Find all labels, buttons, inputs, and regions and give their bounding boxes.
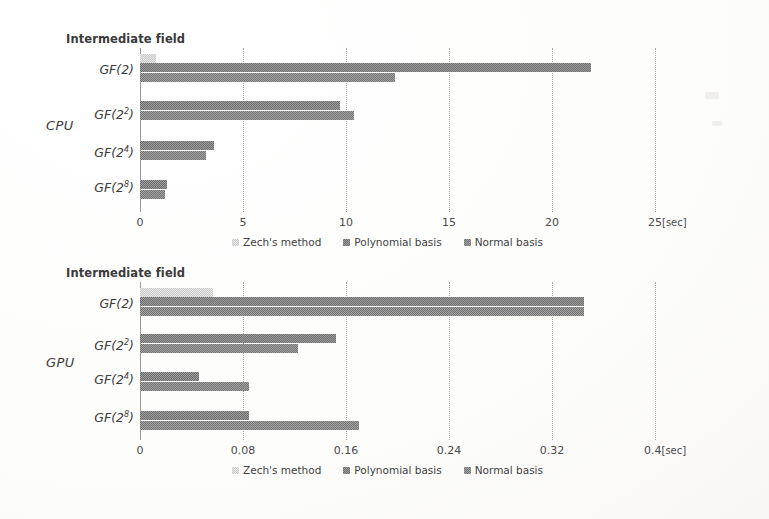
cpu-bar-gf2-2-polynomial [140,101,340,110]
label-close: ) [129,145,134,160]
cpu-legend-label-normal: Normal basis [475,236,543,248]
label-base: GF(2 [94,338,124,353]
gpu-bar-gf2-4-polynomial [140,372,199,381]
cpu-xtick-15: 15 [424,216,474,229]
cpu-bar-gf2-4-polynomial [140,141,214,150]
cpu-gridline-25 [655,48,656,212]
label-base: GF(2 [94,180,124,195]
cpu-legend-item-polynomial: Polynomial basis [343,236,441,248]
cpu-x-unit: [sec] [662,217,687,228]
cpu-axis-title: Intermediate field [66,32,185,46]
cpu-category-label-gf2-4: GF(24) [42,145,134,160]
label-base: GF(2 [99,296,129,311]
label-close: ) [129,410,134,425]
gpu-xtick-0: 0 [115,444,165,457]
cpu-chart: Intermediate field CPU GF(2) GF(22) GF(2… [0,0,769,262]
gpu-bar-gf2-zech [140,288,213,297]
gpu-category-label-gf2: GF(2) [42,296,134,311]
cpu-legend-label-zech: Zech's method [243,236,321,248]
gpu-bar-gf2-8-polynomial [140,411,249,420]
gpu-legend-label-polynomial: Polynomial basis [354,464,441,476]
cpu-bar-gf2-8-polynomial [140,180,167,189]
gpu-bar-gf2-4-normal [140,382,249,391]
cpu-gridline-15 [449,48,450,212]
cpu-bar-gf2-2-normal [140,111,354,120]
label-base: GF(2 [99,62,129,77]
gpu-gridline-04 [655,282,656,440]
gpu-bar-gf2-2-polynomial [140,334,336,343]
label-close: ) [129,62,134,77]
cpu-category-label-gf2: GF(2) [42,62,134,77]
gpu-bar-gf2-normal [140,307,584,316]
cpu-legend-label-polynomial: Polynomial basis [354,236,441,248]
cpu-xtick-5: 5 [218,216,268,229]
gpu-category-label-gf2-4: GF(24) [42,372,134,387]
legend-swatch-icon [343,239,350,246]
cpu-gridline-20 [552,48,553,212]
label-close: ) [129,180,134,195]
gpu-xtick-008: 0.08 [218,444,268,457]
gpu-bar-gf2-polynomial [140,297,584,306]
cpu-bar-gf2-zech [140,54,156,63]
gpu-chart: Intermediate field GPU GF(2) GF(22) GF(2… [0,262,769,519]
cpu-xtick-10: 10 [321,216,371,229]
gpu-category-label-gf2-2: GF(22) [42,338,134,353]
cpu-bar-gf2-8-normal [140,190,165,199]
gpu-axis-title: Intermediate field [66,266,185,280]
label-close: ) [129,107,134,122]
cpu-category-label-gf2-2: GF(22) [42,107,134,122]
label-base: GF(2 [94,107,124,122]
gpu-xtick-024: 0.24 [424,444,474,457]
label-base: GF(2 [94,410,124,425]
gpu-legend-item-polynomial: Polynomial basis [343,464,441,476]
gpu-legend-label-zech: Zech's method [243,464,321,476]
gpu-series-title: GPU [46,355,75,370]
gpu-legend-item-zech: Zech's method [232,464,321,476]
gpu-bar-gf2-2-normal [140,344,298,353]
cpu-xtick-25: 25[sec] [630,216,680,229]
cpu-bar-gf2-normal [140,73,395,82]
legend-swatch-icon [464,467,471,474]
cpu-category-label-gf2-8: GF(28) [42,180,134,195]
cpu-xtick-20: 20 [527,216,577,229]
cpu-legend-item-normal: Normal basis [464,236,543,248]
legend-swatch-icon [343,467,350,474]
legend-swatch-icon [232,239,239,246]
gpu-xtick-032: 0.32 [527,444,577,457]
label-close: ) [129,296,134,311]
gpu-xtick-04: 0.4[sec] [630,444,700,457]
legend-swatch-icon [464,239,471,246]
label-base: GF(2 [94,372,124,387]
gpu-bar-gf2-8-normal [140,421,359,430]
cpu-legend: Zech's method Polynomial basis Normal ba… [232,236,543,248]
gpu-xtick-016: 0.16 [321,444,371,457]
cpu-xtick-0: 0 [115,216,165,229]
cpu-bar-gf2-4-normal [140,151,206,160]
legend-swatch-icon [232,467,239,474]
cpu-xtick-25-value: 25 [648,216,662,229]
gpu-x-unit: [sec] [662,445,687,456]
label-close: ) [129,372,134,387]
scan-artifact [705,92,719,99]
gpu-xtick-04-value: 0.4 [644,444,662,457]
gpu-legend-item-normal: Normal basis [464,464,543,476]
gpu-legend: Zech's method Polynomial basis Normal ba… [232,464,543,476]
gpu-legend-label-normal: Normal basis [475,464,543,476]
cpu-legend-item-zech: Zech's method [232,236,321,248]
cpu-bar-gf2-polynomial [140,63,591,72]
scan-artifact [712,121,722,126]
label-close: ) [129,338,134,353]
label-base: GF(2 [94,145,124,160]
gpu-category-label-gf2-8: GF(28) [42,410,134,425]
